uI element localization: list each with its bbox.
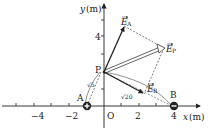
svg-text:B: B	[153, 87, 158, 94]
ep-vector-label: E P	[165, 44, 176, 54]
field-vector-diagram: −4 −2 2 4 4 O y (m) x (m)	[0, 0, 214, 132]
ap-distance-arc	[85, 72, 100, 104]
point-b-label: B	[170, 90, 177, 100]
x-axis-label: x	[183, 112, 188, 122]
x-tick-2: 2	[135, 111, 141, 121]
point-p-label: P	[95, 65, 101, 75]
y-axis-unit: (m)	[86, 4, 102, 14]
point-p-marker	[103, 71, 106, 74]
x-tick-minus4: −4	[31, 111, 45, 121]
ea-vector-arrow	[104, 27, 124, 72]
x-axis-unit: (m)	[189, 112, 205, 122]
svg-text:A: A	[126, 20, 132, 27]
ap-distance-label: √5	[87, 81, 95, 88]
point-a-label: A	[76, 93, 84, 103]
ep-vector-arrow	[104, 44, 165, 74]
y-tick-4: 4	[95, 32, 101, 42]
y-axis	[101, 4, 104, 128]
eb-vector-label: E B	[146, 84, 158, 94]
bp-distance-label: √20	[121, 93, 133, 100]
charge-b-negative	[170, 102, 178, 110]
origin-label: O	[107, 111, 114, 121]
charge-a-positive	[83, 102, 91, 110]
y-axis-label: y	[79, 4, 86, 14]
x-tick-minus2: −2	[65, 111, 78, 121]
x-tick-4: 4	[171, 111, 177, 121]
svg-text:P: P	[172, 47, 176, 54]
ea-vector-label: E A	[120, 17, 132, 27]
eb-vector-arrow	[104, 72, 143, 93]
